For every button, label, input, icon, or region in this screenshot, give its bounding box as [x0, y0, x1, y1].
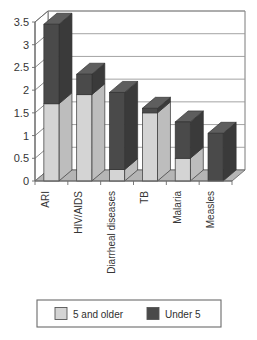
- bar-segment-under-5-front: [175, 122, 190, 158]
- legend-label: Under 5: [165, 309, 201, 320]
- x-axis: ARIHIV/AIDSDiarrheal diseasesTBMalariaMe…: [35, 181, 232, 274]
- y-axis-tick-label: 3.5: [14, 16, 29, 28]
- x-axis-category-label: TB: [139, 191, 150, 204]
- bar-segment-5-and-older-front: [142, 113, 157, 181]
- bar-segment-5-and-older-front: [77, 95, 92, 181]
- legend-swatch: [55, 308, 67, 320]
- y-axis-tick-label: 1.5: [14, 107, 29, 119]
- bar-group-tb[interactable]: [142, 97, 170, 181]
- bar-segment-under-5-front: [110, 92, 125, 169]
- bar-segment-5-and-older-side: [157, 102, 170, 181]
- y-axis-tick-label: 2: [23, 84, 29, 96]
- x-axis-category-label: HIV/AIDS: [73, 191, 84, 234]
- bar-segment-under-5-front: [142, 108, 157, 113]
- chart-legend: 5 and olderUnder 5: [37, 300, 221, 327]
- bar-group-diarrheal-diseases[interactable]: [110, 81, 138, 181]
- legend-swatch: [147, 308, 159, 320]
- bar-segment-under-5-front: [208, 133, 223, 181]
- bar-segment-5-and-older-side: [92, 84, 105, 181]
- bar-segment-under-5-front: [77, 74, 92, 94]
- y-axis-tick-label: 0.5: [14, 152, 29, 164]
- bar-group-hiv-aids[interactable]: [77, 63, 105, 181]
- legend-item-under-5[interactable]: Under 5: [147, 308, 201, 320]
- x-axis-category-label: Diarrheal diseases: [106, 191, 117, 274]
- legend-item-5-and-older[interactable]: 5 and older: [55, 308, 124, 320]
- bar-segment-5-and-older-front: [175, 158, 190, 181]
- bar-segment-5-and-older-front: [110, 170, 125, 181]
- x-axis-category-label: ARI: [40, 191, 51, 208]
- chart-container: 00.511.522.533.5ARIHIV/AIDSDiarrheal dis…: [0, 0, 257, 340]
- bar-group-ari[interactable]: [44, 13, 72, 181]
- x-axis-category-label: Measles: [205, 191, 216, 228]
- y-axis-tick-label: 3: [23, 39, 29, 51]
- y-axis-tick-label: 1: [23, 130, 29, 142]
- bar-segment-under-5-front: [44, 24, 59, 104]
- stacked-column-chart: 00.511.522.533.5ARIHIV/AIDSDiarrheal dis…: [0, 0, 257, 340]
- bar-segment-5-and-older-side: [59, 93, 72, 181]
- x-axis-category-label: Malaria: [172, 191, 183, 224]
- bar-group-measles[interactable]: [208, 122, 236, 181]
- y-axis-tick-label: 0: [23, 175, 29, 187]
- bar-segment-5-and-older-front: [44, 104, 59, 181]
- bar-segment-under-5-side: [59, 13, 72, 104]
- bar-group-malaria[interactable]: [175, 111, 203, 181]
- bar-segment-under-5-side: [125, 81, 138, 169]
- legend-label: 5 and older: [73, 309, 124, 320]
- y-axis-tick-label: 2.5: [14, 61, 29, 73]
